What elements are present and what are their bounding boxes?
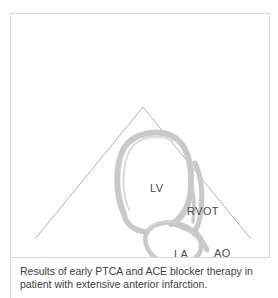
label-rvot: RVOT [187, 206, 219, 217]
sector-cone [35, 107, 251, 239]
figure-caption: Results of early PTCA and ACE blocker th… [20, 265, 268, 290]
echocardiogram-drawing [11, 14, 269, 257]
caption-line-2: patient with extensive anterior infarcti… [20, 278, 268, 291]
label-la: LA [174, 249, 188, 258]
lv-apical-segment [124, 214, 147, 232]
lv-endocardial-border [123, 137, 172, 210]
label-ao: AO [214, 248, 231, 258]
cardiac-anatomy [117, 133, 207, 257]
rvot-outer-wall [195, 163, 202, 231]
label-lv: LV [150, 183, 163, 194]
figure-root: LV RVOT LA AO Results of early PTCA and … [0, 0, 278, 298]
echo-image-panel: LV RVOT LA AO [10, 13, 270, 258]
caption-line-1: Results of early PTCA and ACE blocker th… [20, 265, 268, 278]
